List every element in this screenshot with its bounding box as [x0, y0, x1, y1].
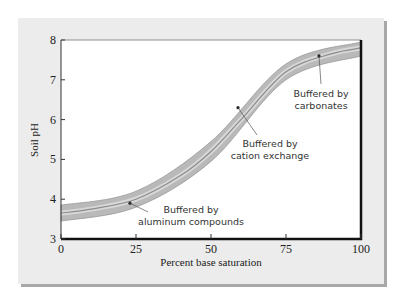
y-axis-title: Soil pH	[28, 123, 40, 157]
y-tick-label: 7	[50, 73, 56, 87]
y-tick-label: 8	[50, 33, 56, 47]
x-tick-label: 50	[205, 242, 217, 256]
x-axis-title: Percent base saturation	[160, 256, 262, 268]
annotation-text: Buffered by	[163, 204, 219, 215]
annotation-text: cation exchange	[231, 150, 310, 161]
annotation-text: aluminum compounds	[138, 216, 244, 227]
y-tick-label: 4	[50, 192, 56, 206]
x-tick-label: 100	[352, 242, 370, 256]
x-tick-label: 25	[130, 242, 142, 256]
y-tick-label: 6	[50, 113, 56, 127]
y-tick-label: 3	[50, 232, 56, 246]
annotation-text: Buffered by	[293, 88, 349, 99]
x-tick-label: 0	[58, 242, 64, 256]
x-tick-label: 75	[280, 242, 292, 256]
annotation-text: carbonates	[294, 100, 347, 111]
annotation-text: Buffered by	[242, 138, 298, 149]
y-tick-label: 5	[50, 152, 56, 166]
chart-svg: 345678 0255075100 Percent base saturatio…	[0, 0, 400, 305]
